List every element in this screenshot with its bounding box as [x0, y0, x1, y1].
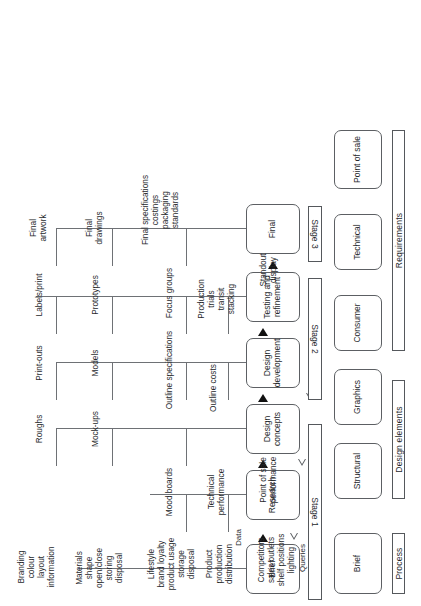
- detail-structural-final-drawings: Final drawings: [84, 194, 104, 262]
- flow-text-queries: Queries: [298, 544, 307, 572]
- rung-structural-c: [112, 297, 113, 334]
- stage-bar-1: Stage 1: [308, 424, 322, 600]
- rung-graphics-b: [56, 363, 57, 400]
- band-label-design-elements: Design elements: [392, 380, 405, 499]
- rung-structural-d: [112, 229, 113, 266]
- rung-consumer-c: [186, 363, 187, 400]
- detail-consumer-final-specifications: Final specifications costings packaging …: [140, 156, 180, 264]
- detail-technical-brief: Product production distribution: [204, 524, 234, 604]
- stage-bar-2: Stage 2: [308, 278, 322, 400]
- detail-graphics-final-artwork: Final artwork: [28, 194, 48, 262]
- detail-graphics-roughs: Roughs: [34, 397, 44, 461]
- detail-technical-production-trials: Production trials transit stacking: [196, 262, 236, 336]
- band-label-requirements: Requirements: [392, 130, 405, 351]
- detail-graphics-printouts: Print-outs: [34, 329, 44, 397]
- detail-consumer-focus-groups: Focus groups: [164, 256, 174, 330]
- rung-consumer-d: [186, 297, 187, 334]
- detail-structural-prototypes: Prototypes: [90, 260, 100, 330]
- detail-structural-brief: Materials shape open/close storing dispo…: [74, 530, 125, 606]
- detail-technical-outline-costs: Outline costs: [208, 348, 218, 428]
- detail-structural-models: Models: [90, 329, 100, 397]
- stage-bar-3: Stage 3: [308, 206, 322, 262]
- canvas-box-point-of-sale[interactable]: Point of sale: [334, 130, 382, 189]
- canvas-box-brief[interactable]: Brief: [334, 533, 382, 594]
- canvas-box-consumer[interactable]: Consumer: [334, 295, 382, 351]
- detail-graphics-labels: Labels/print: [34, 260, 44, 330]
- rung-technical-b: [228, 363, 229, 400]
- rung-graphics-c: [56, 297, 57, 334]
- arrow-forward-3-icon: [258, 394, 268, 402]
- process-design-development[interactable]: Design development: [246, 338, 300, 388]
- canvas-box-technical[interactable]: Technical: [334, 214, 382, 270]
- rung-structural-a: [112, 429, 113, 466]
- band-label-process: Process: [392, 533, 405, 594]
- flow-text-data: Data: [234, 529, 243, 546]
- product-design-process-diagram: Process Design elements Requirements Bri…: [0, 0, 421, 606]
- rung-consumer-e: [186, 229, 187, 266]
- detail-pos-brief: Competitors sales outlets shelf position…: [256, 514, 296, 606]
- detail-consumer-brief: Lifestyle brand loyalty product usage st…: [146, 522, 197, 606]
- spine-from-design-concepts: [56, 428, 246, 429]
- rung-graphics-a: [56, 429, 57, 466]
- detail-graphics-brief: Branding colour layout information: [16, 532, 56, 602]
- arrow-forward-4-icon: [258, 328, 268, 336]
- detail-structural-mockups: Mock-ups: [90, 397, 100, 461]
- canvas-box-graphics[interactable]: Graphics: [334, 369, 382, 425]
- rung-graphics-d: [56, 229, 57, 266]
- detail-technical-performance: Technical performance: [206, 454, 226, 530]
- rung-structural-b: [112, 363, 113, 400]
- rung-consumer-b: [186, 429, 187, 466]
- canvas-box-structural[interactable]: Structural: [334, 443, 382, 499]
- arrow-back-2-icon: [298, 452, 306, 459]
- detail-consumer-moodboards: Mood boards: [164, 456, 174, 528]
- detail-pos-standout-display: Standout display: [258, 234, 278, 306]
- detail-pos-performance: Point of sale performance: [258, 438, 278, 522]
